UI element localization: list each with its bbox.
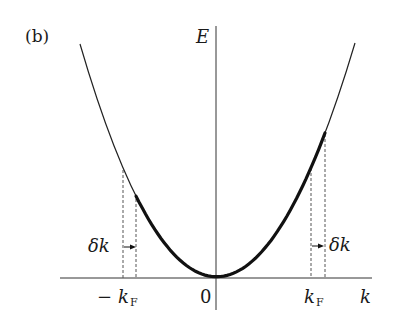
occupied-segment [136, 133, 325, 277]
neg-sign: − [97, 286, 112, 307]
pos-kf-label: kF [304, 288, 324, 308]
delta-k-left-label: δk [88, 237, 110, 255]
neg-kf-symbol: k [118, 286, 129, 307]
x-axis-label: k [360, 288, 371, 306]
neg-kf-label: −kF [97, 288, 138, 308]
pos-kf-symbol: k [304, 286, 315, 307]
arrow-right-right [312, 244, 324, 249]
neg-kf-sub: F [130, 296, 138, 309]
origin-label: 0 [200, 288, 211, 306]
pos-kf-sub: F [316, 296, 324, 309]
diagram-canvas [0, 0, 393, 330]
panel-label: (b) [25, 28, 49, 45]
delta-k-right-label: δk [329, 236, 351, 254]
y-axis-label: E [196, 28, 209, 46]
arrow-right-left [124, 245, 136, 250]
dispersion-diagram: (b) E k 0 −kF kF δk δk [0, 0, 393, 330]
